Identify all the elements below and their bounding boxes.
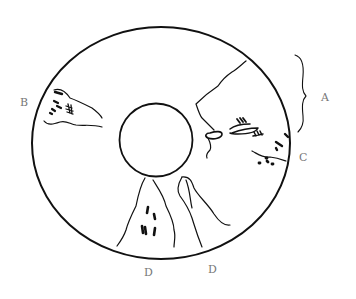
label-d1: D [144, 266, 153, 279]
region-c-drawing [252, 134, 288, 164]
label-d2: D [208, 263, 217, 276]
region-d2-drawing [178, 177, 230, 247]
diagram-canvas [0, 0, 356, 299]
brace-a [295, 55, 306, 132]
region-a-drawing [196, 61, 263, 158]
label-a: A [321, 91, 329, 104]
region-b-drawing [44, 89, 102, 127]
label-c: C [299, 151, 307, 164]
region-d1-drawing [117, 178, 175, 247]
label-b: B [20, 96, 28, 109]
outer-ring [32, 27, 290, 259]
inner-hole [120, 104, 193, 177]
